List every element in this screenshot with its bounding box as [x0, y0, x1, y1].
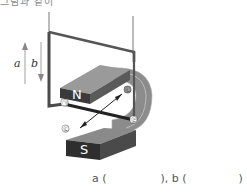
answer-blank-line: a (), b () [92, 172, 243, 185]
svg-text:㉡: ㉡ [125, 86, 131, 94]
answer-a-label: a ( [92, 172, 107, 185]
point-label-rieul: ㉣ [130, 116, 137, 124]
magnet-loop-diagram: N S a b ㉠ ㉡ ㉢ ㉣ [0, 0, 247, 194]
point-label-nieun: ㉡ [124, 86, 131, 94]
svg-text:㉣: ㉣ [131, 116, 137, 124]
answer-close: ) [239, 172, 243, 185]
point-label-digeut: ㉢ [62, 125, 69, 133]
north-pole-label: N [72, 87, 82, 102]
arrow-a-label: a [14, 57, 21, 70]
point-label-giyeok: ㉠ [61, 99, 68, 107]
field-arrowhead-up [115, 94, 122, 101]
arrow-b-head [38, 74, 44, 82]
svg-text:㉠: ㉠ [62, 99, 68, 107]
field-arrowhead-down [80, 121, 87, 128]
arrow-b-label: b [31, 57, 38, 70]
loop-top-side [49, 32, 134, 62]
south-pole-label: S [80, 142, 88, 157]
answer-b-label: ), b ( [161, 172, 187, 185]
svg-text:㉢: ㉢ [63, 125, 69, 133]
arrow-a-head [22, 42, 28, 50]
